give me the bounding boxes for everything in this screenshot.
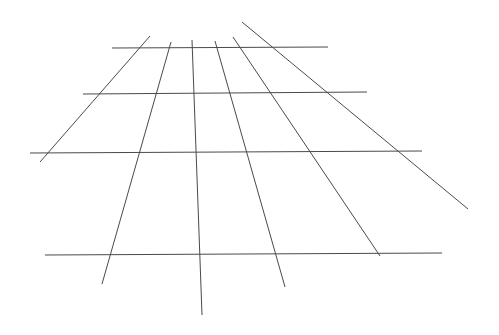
- converging-line-1: [40, 36, 150, 162]
- converging-line-4: [215, 41, 285, 287]
- converging-line-5: [233, 37, 380, 256]
- horizontal-lines: [30, 47, 442, 255]
- grid-svg: [0, 0, 499, 335]
- converging-lines: [40, 22, 468, 315]
- converging-line-6: [242, 22, 468, 209]
- converging-line-2: [102, 42, 171, 284]
- horizontal-line-2: [83, 92, 367, 94]
- perspective-grid-diagram: [0, 0, 499, 335]
- horizontal-line-1: [112, 47, 328, 48]
- horizontal-line-3: [30, 151, 422, 153]
- converging-line-3: [192, 40, 202, 315]
- horizontal-line-4: [45, 253, 442, 255]
